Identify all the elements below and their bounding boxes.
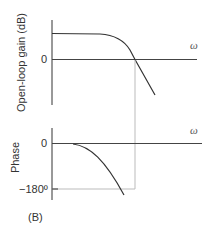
phase-curve — [73, 144, 124, 195]
gain-zero-tick-label: 0 — [41, 54, 47, 65]
phase-x-label-omega: ω — [190, 125, 198, 136]
figure-label: (B) — [28, 212, 43, 223]
gain-x-label-omega: ω — [190, 40, 198, 51]
bode-diagram — [0, 0, 210, 233]
gain-y-label: Open-loop gain (dB) — [16, 13, 27, 113]
phase-minus180-tick-label: −180º — [19, 184, 48, 195]
gain-curve — [52, 34, 155, 96]
phase-y-label: Phase — [10, 138, 21, 178]
phase-zero-tick-label: 0 — [41, 138, 47, 149]
